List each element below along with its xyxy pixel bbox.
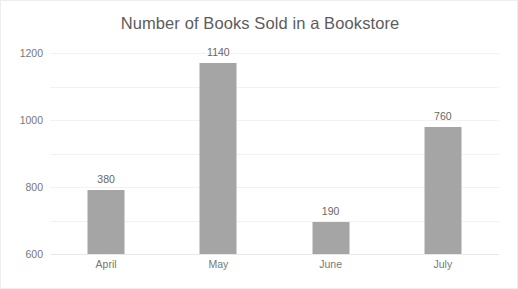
axis-line-zero: 0 [50, 254, 499, 255]
bar-slot-3: 760 [387, 53, 499, 254]
bar-value-label: 190 [322, 205, 340, 217]
bar-slot-1: 1140 [162, 53, 274, 254]
bar-value-label: 1140 [207, 46, 230, 58]
bar-july[interactable] [424, 127, 461, 254]
bar-value-label: 380 [97, 173, 115, 185]
x-axis-tick-label-may: May [162, 258, 274, 270]
x-axis-tick-label-april: April [50, 258, 162, 270]
bar-value-label: 760 [434, 110, 452, 122]
bar-series: 380 1140 190 760 [50, 53, 499, 254]
bar-june[interactable] [312, 222, 349, 254]
bar-slot-0: 380 [50, 53, 162, 254]
bar-slot-2: 190 [275, 53, 387, 254]
y-axis-tick-label: 1000 [1, 114, 43, 126]
chart-container: Number of Books Sold in a Bookstore 1200… [0, 0, 518, 289]
bar-april[interactable] [88, 190, 125, 254]
y-axis-tick-label: 800 [1, 181, 43, 193]
plot-area: 120010008006004002000 380 1140 190 760 [50, 53, 499, 254]
x-axis-tick-label-june: June [275, 258, 387, 270]
y-axis-tick-label: 600 [1, 248, 43, 260]
y-axis-tick-label: 1200 [1, 47, 43, 59]
x-axis-tick-label-july: July [387, 258, 499, 270]
chart-title: Number of Books Sold in a Bookstore [1, 14, 518, 33]
bar-may[interactable] [200, 63, 237, 254]
x-axis-labels: AprilMayJuneJuly [50, 258, 499, 270]
